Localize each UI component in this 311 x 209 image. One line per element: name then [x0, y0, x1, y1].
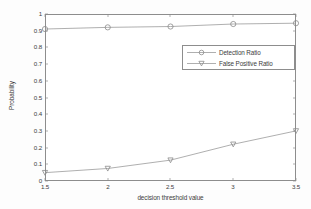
legend-entry: False Positive Ratio [183, 58, 296, 69]
y-tick-label: 0.4 [22, 111, 42, 117]
x-tick-label: 3 [221, 184, 245, 190]
y-tick-label: 0.9 [22, 28, 42, 34]
x-tick-label: 3.5 [284, 184, 308, 190]
y-axis-title: Probability [8, 66, 15, 126]
y-tick-label: 0.2 [22, 145, 42, 151]
y-tick-label-group: 10.90.80.70.60.50.40.30.20.10 [18, 0, 42, 209]
legend-marker-triangle-down-icon [186, 58, 217, 69]
x-tick-label: 2 [96, 184, 120, 190]
x-tick-label: 2.5 [158, 184, 182, 190]
legend-entry: Detection Ratio [183, 47, 296, 58]
legend-label: Detection Ratio [219, 49, 261, 56]
y-tick-label: 0.8 [22, 44, 42, 50]
legend-label: False Positive Ratio [219, 60, 273, 67]
legend-marker-circle-icon [186, 47, 217, 58]
y-tick-label: 1 [22, 11, 42, 17]
series-line [45, 131, 296, 173]
x-axis-title: decision threshold value [45, 194, 296, 201]
y-tick-label: 0.7 [22, 61, 42, 67]
x-tick-label: 1.5 [33, 184, 57, 190]
y-tick-label: 0.6 [22, 78, 42, 84]
y-tick-label: 0.1 [22, 161, 42, 167]
legend: Detection Ratio False Positive Ratio [182, 45, 295, 70]
series-layer [42, 21, 298, 176]
y-tick-label: 0.3 [22, 128, 42, 134]
figure-canvas: 10.90.80.70.60.50.40.30.20.10 1.522.533.… [0, 0, 311, 209]
y-axis-title-wrapper: Probability [3, 0, 17, 209]
chart-graphics [0, 0, 311, 209]
y-tick-label: 0.5 [22, 95, 42, 101]
tick-marks [45, 14, 296, 181]
